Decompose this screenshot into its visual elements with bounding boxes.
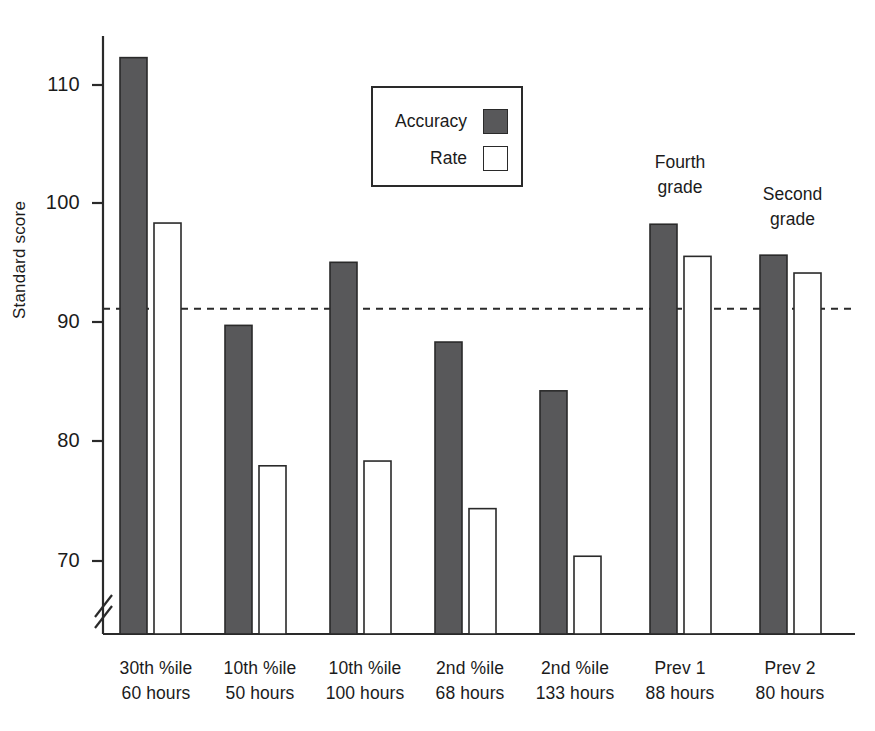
bar-accuracy-group-5: [650, 224, 677, 634]
bar-chart-figure: Standard score 110 100 90 80 70 30th %il…: [0, 0, 875, 731]
annotation-line2: grade: [625, 175, 735, 200]
legend-label-rate: Rate: [430, 148, 467, 169]
x-tick-label-group-6: Prev 2 80 hours: [725, 656, 855, 706]
legend-label-accuracy: Accuracy: [395, 111, 467, 132]
x-tick-line1: Prev 2: [725, 656, 855, 681]
legend-swatch-accuracy: [483, 109, 508, 134]
y-tick-label-100: 100: [34, 191, 80, 214]
chart-legend: Accuracy Rate: [371, 86, 523, 187]
annotation-line2: grade: [735, 207, 850, 232]
bar-accuracy-group-0: [120, 58, 147, 634]
y-tick-label-70: 70: [34, 549, 80, 572]
bar-rate-group-6: [794, 273, 821, 634]
annotation-fourth-grade: Fourth grade: [625, 150, 735, 200]
bar-rate-group-0: [154, 223, 181, 634]
bar-accuracy-group-4: [540, 391, 567, 634]
y-axis-title: Standard score: [10, 160, 30, 360]
bar-accuracy-group-6: [760, 255, 787, 634]
legend-item-rate: Rate: [373, 142, 521, 174]
y-tick-label-90: 90: [34, 310, 80, 333]
bar-accuracy-group-2: [330, 262, 357, 634]
bar-accuracy-group-1: [225, 325, 252, 634]
legend-swatch-rate: [483, 146, 508, 171]
annotation-second-grade: Second grade: [735, 182, 850, 232]
y-axis-ticks: [92, 85, 103, 561]
y-tick-label-110: 110: [34, 73, 80, 96]
bar-accuracy-group-3: [435, 342, 462, 634]
x-tick-line2: 80 hours: [725, 681, 855, 706]
bar-rate-group-3: [469, 509, 496, 634]
bar-rate-group-2: [364, 461, 391, 634]
legend-item-accuracy: Accuracy: [373, 105, 521, 137]
y-tick-label-80: 80: [34, 429, 80, 452]
annotation-line1: Fourth: [625, 150, 735, 175]
bar-rate-group-4: [574, 556, 601, 634]
bar-rate-group-5: [684, 256, 711, 634]
annotation-line1: Second: [735, 182, 850, 207]
bar-rate-group-1: [259, 466, 286, 634]
